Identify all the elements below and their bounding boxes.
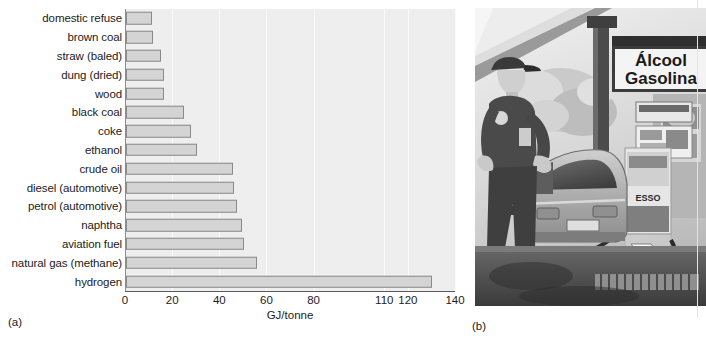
bar-category-label: naphtha [81, 219, 122, 231]
bar-rows: domestic refusebrown coalstraw (baled)du… [0, 9, 461, 291]
bar-row: dung (dried) [0, 65, 461, 84]
bar-category-label: aviation fuel [62, 238, 122, 250]
bar-row: ethanol [0, 141, 461, 160]
bar-row: diesel (automotive) [0, 178, 461, 197]
panel-b-label: (b) [472, 320, 486, 332]
x-axis-title: GJ/tonne [125, 309, 455, 321]
bar-category-label: ethanol [85, 144, 122, 156]
x-tick-label: 0 [122, 293, 128, 307]
bar-category-label: wood [95, 88, 122, 100]
bar [126, 125, 191, 138]
x-tick-label: 20 [166, 293, 179, 307]
panel-a-label: (a) [8, 316, 22, 328]
bar [126, 12, 152, 25]
bar [126, 181, 234, 194]
bar-category-label: brown coal [67, 31, 122, 43]
bar [126, 257, 257, 270]
bar [126, 87, 164, 100]
bar-row: petrol (automotive) [0, 197, 461, 216]
bar-category-label: crude oil [79, 163, 122, 175]
bar-row: natural gas (methane) [0, 253, 461, 272]
service-station-photo: Álcool Gasolina ESSO [475, 8, 706, 306]
bar [126, 144, 197, 157]
photo-panel: Álcool Gasolina ESSO [461, 0, 706, 343]
bar [126, 50, 161, 63]
bar [126, 275, 432, 288]
bar [126, 106, 184, 119]
x-tick-label: 60 [260, 293, 273, 307]
bar-row: aviation fuel [0, 235, 461, 254]
bar-category-label: diesel (automotive) [27, 182, 122, 194]
bar-row: naphtha [0, 216, 461, 235]
x-tick-label: 110 [375, 293, 393, 307]
value-axis-line [125, 291, 455, 292]
pump-brand-text: ESSO [635, 193, 660, 203]
bar-row: crude oil [0, 159, 461, 178]
bar-category-label: petrol (automotive) [28, 200, 122, 212]
bar [126, 163, 233, 176]
bar-category-label: black coal [72, 106, 122, 118]
bar [126, 238, 244, 251]
x-tick-label: 120 [398, 293, 417, 307]
bar [126, 200, 237, 213]
bar-category-label: hydrogen [75, 276, 122, 288]
bar-row: wood [0, 84, 461, 103]
bar [126, 219, 242, 232]
x-tick-label: 40 [213, 293, 226, 307]
figure: domestic refusebrown coalstraw (baled)du… [0, 0, 706, 343]
x-axis-tick-labels: 020406080110120140 [0, 293, 461, 309]
sign-text-gasolina: Gasolina [625, 69, 697, 88]
bar-category-label: natural gas (methane) [12, 257, 122, 269]
bar [126, 69, 164, 82]
bar-category-label: coke [98, 125, 122, 137]
bar-row: black coal [0, 103, 461, 122]
page-divider [697, 0, 698, 318]
bar-category-label: domestic refuse [42, 12, 122, 24]
sign-text-alcool: Álcool [635, 51, 687, 70]
bar-category-label: straw (baled) [57, 50, 122, 62]
bar-category-label: dung (dried) [61, 69, 122, 81]
bar-row: brown coal [0, 28, 461, 47]
x-tick-label: 80 [307, 293, 320, 307]
bar-row: domestic refuse [0, 9, 461, 28]
bar-chart-panel: domestic refusebrown coalstraw (baled)du… [0, 0, 461, 343]
bar-row: hydrogen [0, 272, 461, 291]
bar [126, 31, 153, 44]
bar-row: coke [0, 122, 461, 141]
bar-row: straw (baled) [0, 47, 461, 66]
